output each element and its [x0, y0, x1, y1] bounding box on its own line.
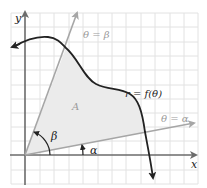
- x-axis-label: x: [191, 158, 198, 171]
- ray-beta-label: θ = β: [83, 29, 110, 40]
- region-label: A: [71, 101, 79, 112]
- angle-beta-label: β: [50, 130, 57, 143]
- polar-area-diagram: y x θ = β θ = α r = f(θ) A β α: [0, 0, 207, 188]
- angle-alpha-label: α: [90, 144, 98, 157]
- curve-label: r = f(θ): [125, 88, 162, 99]
- angle-alpha-arc: [82, 145, 83, 155]
- y-axis-label: y: [14, 12, 22, 25]
- ray-alpha-label: θ = α: [161, 113, 189, 124]
- region-a-fill: [25, 48, 145, 155]
